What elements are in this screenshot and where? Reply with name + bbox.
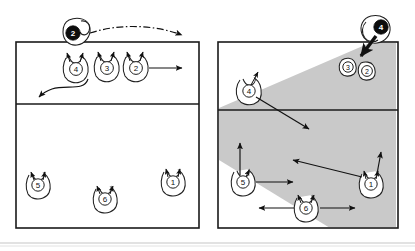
attacker-marker-2: 2 xyxy=(63,18,90,45)
player-marker-6-right: 6 xyxy=(294,195,318,222)
player-marker-1-left: 1 xyxy=(161,169,185,196)
player-label: 5 xyxy=(241,178,246,187)
player-label: 3 xyxy=(346,64,350,71)
player-label: 3 xyxy=(105,64,110,73)
ball-trajectory-arrow xyxy=(90,26,182,35)
player-label: 4 xyxy=(74,65,79,74)
attacker-label-2: 2 xyxy=(71,29,76,38)
player-label: 6 xyxy=(103,195,108,204)
player-marker-3-right: 3 xyxy=(339,58,356,76)
diagram-page: 2 4 3 2 xyxy=(0,0,415,251)
player-marker-2-right: 2 xyxy=(358,62,375,80)
player-label: 4 xyxy=(247,87,252,96)
footer-divider xyxy=(0,243,415,246)
player-marker-6-left: 6 xyxy=(93,186,117,213)
player-marker-5-right: 5 xyxy=(231,169,255,196)
player-label: 1 xyxy=(171,178,176,187)
player-marker-1-right: 1 xyxy=(359,171,383,198)
left-court-diagram: 2 4 3 2 xyxy=(16,18,199,228)
right-court-diagram: 4 3 2 4 5 xyxy=(218,16,398,228)
player-label: 2 xyxy=(134,64,139,73)
player-label: 1 xyxy=(369,180,374,189)
player-label: 2 xyxy=(365,68,369,75)
player-label: 5 xyxy=(36,181,41,190)
player-marker-5-left: 5 xyxy=(26,172,50,199)
player-label: 6 xyxy=(304,204,309,213)
attacker-label-4: 4 xyxy=(379,23,384,32)
